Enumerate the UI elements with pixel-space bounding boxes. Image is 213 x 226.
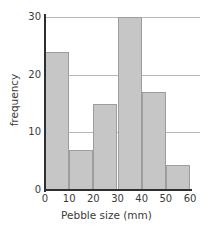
y-axis-line <box>44 14 46 192</box>
bar <box>45 52 69 190</box>
x-axis-label: Pebble size (mm) <box>0 209 213 221</box>
x-tick-label: 30 <box>107 194 129 204</box>
x-tick-label: 40 <box>131 194 153 204</box>
x-tick-label: 10 <box>58 194 80 204</box>
y-tick-label: 20 <box>19 70 41 80</box>
histogram-chart: 0102030 0102030405060 Pebble size (mm) f… <box>0 0 213 226</box>
x-tick-label: 60 <box>179 194 201 204</box>
bar <box>166 165 190 190</box>
x-axis-line <box>44 189 192 191</box>
x-tick-label: 50 <box>155 194 177 204</box>
bar <box>118 17 142 190</box>
bar <box>93 104 117 191</box>
bar <box>69 150 93 190</box>
y-tick-label: 10 <box>19 127 41 137</box>
plot-area <box>45 17 190 190</box>
y-tick-label: 30 <box>19 12 41 22</box>
x-tick-label: 0 <box>34 194 56 204</box>
y-axis-label: frequency <box>8 50 20 150</box>
bar <box>142 92 166 190</box>
x-tick-label: 20 <box>82 194 104 204</box>
x-axis-ticks: 0102030405060 <box>0 194 213 208</box>
